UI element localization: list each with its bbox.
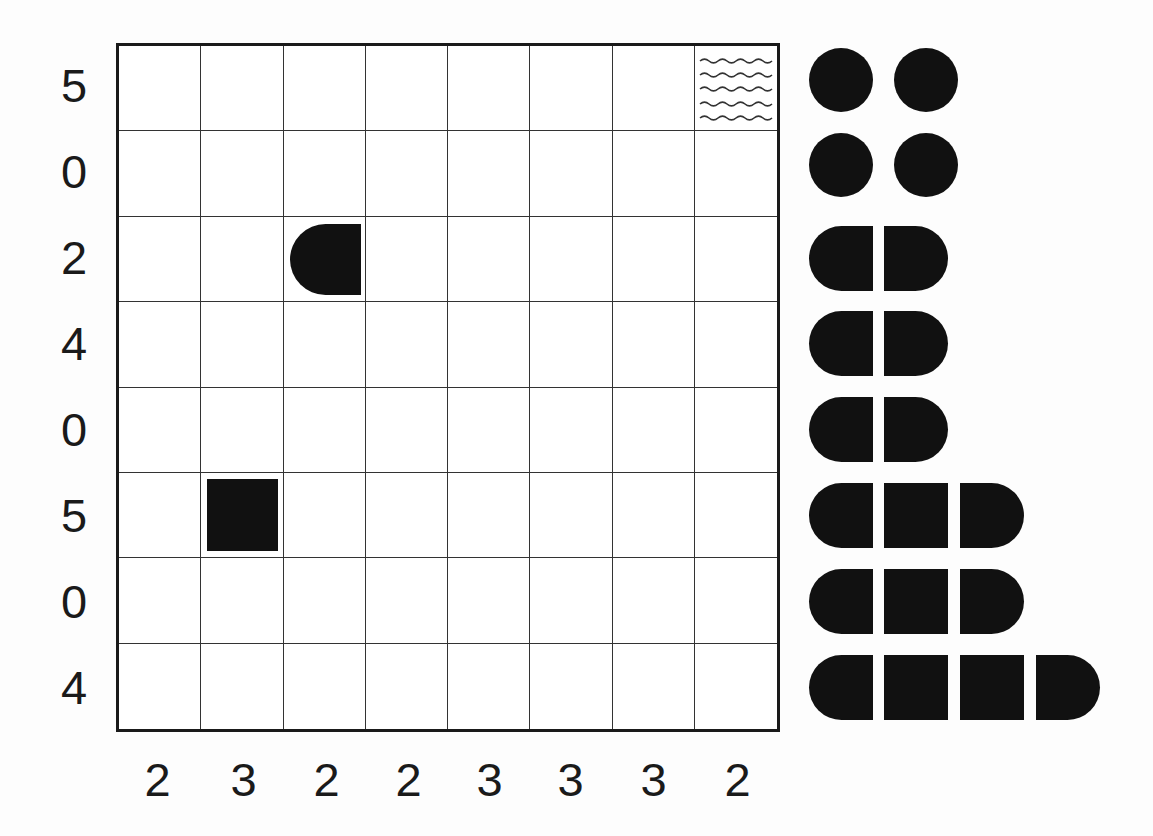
grid-cell-r1-c3[interactable] (284, 46, 366, 131)
ship-segment-left-icon (809, 311, 873, 376)
grid-cell-r7-c5[interactable] (448, 558, 530, 643)
grid-cell-r6-c7[interactable] (613, 473, 695, 558)
grid-cell-r4-c4[interactable] (366, 302, 448, 387)
grid-cell-r7-c8[interactable] (695, 558, 777, 643)
grid-cell-r8-c6[interactable] (530, 644, 612, 729)
grid-cell-r8-c8[interactable] (695, 644, 777, 729)
grid-cell-r6-c1[interactable] (119, 473, 201, 558)
grid-cell-r2-c2[interactable] (201, 131, 283, 216)
grid-cell-r3-c3[interactable] (284, 217, 366, 302)
grid-cell-r8-c4[interactable] (366, 644, 448, 729)
grid-cell-r7-c2[interactable] (201, 558, 283, 643)
grid-cell-r5-c3[interactable] (284, 388, 366, 473)
grid-cell-r4-c3[interactable] (284, 302, 366, 387)
ship-segment-sub-icon (809, 48, 873, 112)
grid-cell-r5-c4[interactable] (366, 388, 448, 473)
ship-segment-mid-icon (884, 655, 948, 720)
grid-cell-r3-c7[interactable] (613, 217, 695, 302)
grid-cell-r1-c2[interactable] (201, 46, 283, 131)
grid-cell-r5-c1[interactable] (119, 388, 201, 473)
ship-segment-right-icon (1036, 655, 1100, 720)
grid-cell-r5-c2[interactable] (201, 388, 283, 473)
grid-cell-r6-c3[interactable] (284, 473, 366, 558)
grid-cell-r8-c1[interactable] (119, 644, 201, 729)
ship-segment-mid-icon (884, 569, 948, 634)
grid-cell-r5-c8[interactable] (695, 388, 777, 473)
ship-segment-mid-icon (960, 655, 1024, 720)
grid-cell-r2-c5[interactable] (448, 131, 530, 216)
ship-segment-sub-icon (894, 48, 958, 112)
row-clue-4: 4 (56, 301, 92, 387)
grid-cell-r1-c6[interactable] (530, 46, 612, 131)
column-clue-5: 3 (448, 752, 531, 808)
grid-cell-r3-c8[interactable] (695, 217, 777, 302)
ship-segment-sub-icon (894, 133, 958, 197)
ship-middle-square-icon (207, 479, 277, 551)
grid-cell-r2-c4[interactable] (366, 131, 448, 216)
row-clue-2: 0 (56, 129, 92, 215)
row-clue-8: 4 (56, 645, 92, 731)
grid-cell-r2-c1[interactable] (119, 131, 201, 216)
ship-segment-left-icon (809, 483, 873, 548)
grid-cell-r6-c6[interactable] (530, 473, 612, 558)
column-clue-6: 3 (529, 752, 612, 808)
ship-segment-sub-icon (809, 133, 873, 197)
column-clue-7: 3 (612, 752, 695, 808)
grid-cell-r6-c2[interactable] (201, 473, 283, 558)
grid-cell-r5-c7[interactable] (613, 388, 695, 473)
ship-segment-left-icon (809, 226, 873, 291)
row-clue-5: 0 (56, 387, 92, 473)
grid-cell-r4-c8[interactable] (695, 302, 777, 387)
grid-cell-r2-c7[interactable] (613, 131, 695, 216)
row-clue-6: 5 (56, 473, 92, 559)
grid-cell-r3-c6[interactable] (530, 217, 612, 302)
grid-cell-r2-c8[interactable] (695, 131, 777, 216)
ship-segment-right-icon (884, 226, 948, 291)
grid-cell-r1-c8[interactable] (695, 46, 777, 131)
grid-cell-r4-c7[interactable] (613, 302, 695, 387)
grid-cell-r1-c1[interactable] (119, 46, 201, 131)
grid-cell-r1-c4[interactable] (366, 46, 448, 131)
row-clue-1: 5 (56, 43, 92, 129)
grid-cell-r1-c5[interactable] (448, 46, 530, 131)
ship-segment-mid-icon (884, 483, 948, 548)
grid-cell-r4-c6[interactable] (530, 302, 612, 387)
grid-cell-r5-c5[interactable] (448, 388, 530, 473)
grid-cell-r8-c7[interactable] (613, 644, 695, 729)
column-clue-2: 3 (202, 752, 285, 808)
grid-cell-r3-c1[interactable] (119, 217, 201, 302)
ship-segment-right-icon (960, 569, 1024, 634)
grid-cell-r3-c5[interactable] (448, 217, 530, 302)
water-waves-icon (699, 56, 774, 122)
grid-cell-r2-c6[interactable] (530, 131, 612, 216)
grid-cell-r1-c7[interactable] (613, 46, 695, 131)
grid-cell-r7-c3[interactable] (284, 558, 366, 643)
grid-cell-r4-c5[interactable] (448, 302, 530, 387)
grid-cell-r8-c2[interactable] (201, 644, 283, 729)
grid-cell-r3-c2[interactable] (201, 217, 283, 302)
ship-segment-right-icon (960, 483, 1024, 548)
grid-cell-r7-c6[interactable] (530, 558, 612, 643)
grid-cell-r4-c2[interactable] (201, 302, 283, 387)
grid-cell-r6-c4[interactable] (366, 473, 448, 558)
grid-cell-r6-c5[interactable] (448, 473, 530, 558)
ship-segment-right-icon (884, 311, 948, 376)
ship-end-left-icon (290, 224, 361, 295)
puzzle-grid (119, 46, 777, 729)
row-clue-7: 0 (56, 559, 92, 645)
column-clue-4: 2 (367, 752, 450, 808)
grid-cell-r7-c1[interactable] (119, 558, 201, 643)
grid-cell-r4-c1[interactable] (119, 302, 201, 387)
ship-segment-left-icon (809, 397, 873, 462)
grid-cell-r7-c4[interactable] (366, 558, 448, 643)
grid-cell-r6-c8[interactable] (695, 473, 777, 558)
grid-cell-r8-c3[interactable] (284, 644, 366, 729)
grid-cell-r7-c7[interactable] (613, 558, 695, 643)
grid-cell-r3-c4[interactable] (366, 217, 448, 302)
grid-cell-r8-c5[interactable] (448, 644, 530, 729)
row-clue-3: 2 (56, 215, 92, 301)
grid-cell-r5-c6[interactable] (530, 388, 612, 473)
grid-cell-r2-c3[interactable] (284, 131, 366, 216)
column-clue-1: 2 (116, 752, 199, 808)
column-clue-3: 2 (285, 752, 368, 808)
